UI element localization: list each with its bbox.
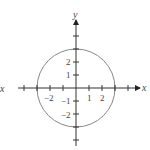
y-axis-label: y: [72, 9, 78, 20]
left-edge-label: x: [0, 83, 5, 94]
x-tick-label-1: 1: [87, 93, 92, 103]
y-tick-label-neg1: −1: [61, 96, 71, 106]
y-tick-label-neg2: −2: [61, 110, 71, 120]
coordinate-plane: y x x −2 1 2 2 1 −1 −2: [0, 0, 150, 150]
x-tick-label-neg2: −2: [44, 93, 54, 103]
x-tick-label-2: 2: [100, 93, 105, 103]
x-axis-label: x: [141, 82, 147, 93]
y-tick-label-2: 2: [66, 57, 71, 67]
figure: y x x −2 1 2 2 1 −1 −2: [0, 0, 150, 150]
y-tick-label-1: 1: [66, 70, 71, 80]
